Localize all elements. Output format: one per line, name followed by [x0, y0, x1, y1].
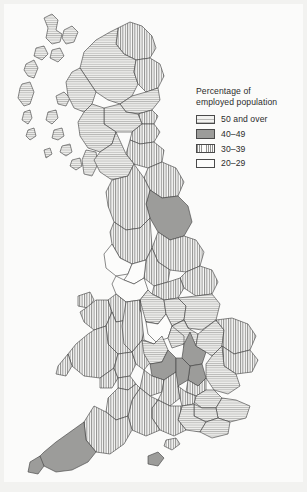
legend-item-20-29: 20–29: [196, 156, 300, 171]
legend-item-40-49: 40–49: [196, 127, 300, 142]
legend-label-20-29: 20–29: [221, 158, 245, 168]
region-durham: [146, 190, 192, 240]
legend-title: Percentage of employed population: [196, 86, 300, 107]
map-legend: Percentage of employed population 50 and…: [196, 86, 300, 171]
legend-label-40-49: 40–49: [221, 129, 245, 139]
legend-items: 50 and over 40–49 30–39 20–29: [196, 112, 300, 170]
great-britain-choropleth-map: [0, 0, 307, 492]
region-shetland-orkney: [34, 14, 78, 62]
legend-swatch-20-29: [196, 159, 215, 169]
region-scilly: [148, 452, 164, 466]
legend-item-30-39: 30–39: [196, 141, 300, 156]
region-mid-glamorgan: [114, 352, 136, 378]
legend-item-50-and-over: 50 and over: [196, 112, 300, 127]
legend-label-30-39: 30–39: [221, 144, 245, 154]
region-grampian: [134, 58, 164, 92]
region-kent: [216, 398, 250, 422]
region-isle-of-wight: [164, 438, 180, 450]
region-outer-hebrides: [18, 60, 38, 140]
figure-page: Percentage of employed population 50 and…: [0, 0, 307, 492]
legend-swatch-40-49: [196, 129, 215, 139]
legend-swatch-30-39: [196, 144, 215, 154]
legend-label-50-and-over: 50 and over: [221, 114, 268, 124]
legend-swatch-50-and-over: [196, 115, 215, 125]
